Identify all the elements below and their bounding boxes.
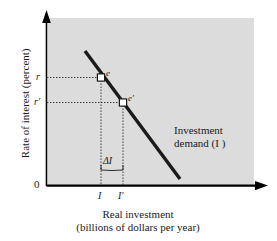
- curve-legend-line2: demand (I ): [174, 137, 225, 150]
- y-tick-label-r-prime: r′: [34, 96, 40, 108]
- curve-legend: Investment demand (I ): [174, 124, 225, 149]
- y-axis-title: Rate of interest (percent): [19, 37, 32, 169]
- plot-background: [48, 18, 254, 185]
- data-point-e-prime: [119, 99, 126, 106]
- point-e-prime-label: e′: [128, 93, 134, 103]
- chart-canvas: [0, 0, 277, 241]
- data-point-e: [97, 74, 104, 81]
- point-e-label: e: [106, 68, 110, 78]
- y-axis-arrowhead: [42, 10, 51, 23]
- x-axis-caption-line2: (billions of dollars per year): [28, 221, 248, 234]
- x-axis-caption-line1: Real investment: [28, 208, 248, 221]
- origin-label: 0: [34, 178, 40, 191]
- curve-legend-line1: Investment: [174, 124, 225, 137]
- x-axis-arrowhead: [255, 181, 268, 190]
- x-axis-caption: Real investment (billions of dollars per…: [28, 208, 248, 233]
- investment-demand-figure: Rate of interest (percent) r r′ 0 I I′ Δ…: [0, 0, 277, 241]
- y-tick-label-r: r: [36, 71, 40, 83]
- x-tick-label-i-prime: I′: [118, 190, 124, 202]
- delta-i-label: ΔI: [103, 155, 112, 167]
- x-tick-label-i: I: [98, 190, 101, 202]
